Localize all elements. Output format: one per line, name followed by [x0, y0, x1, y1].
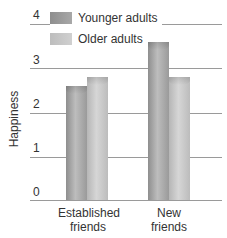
cat-line: Established: [58, 206, 118, 220]
gridline-0: [30, 200, 222, 201]
gridline-3: [30, 68, 222, 69]
cat-line: New: [148, 206, 190, 220]
bar-established-younger: [66, 86, 87, 200]
y-tick-2: 2: [33, 97, 40, 111]
bar-new-younger: [148, 42, 169, 200]
legend-swatch-younger: [50, 12, 72, 24]
legend-label-younger: Younger adults: [78, 11, 158, 25]
gridline-1: [30, 157, 222, 158]
x-category-established: Established friends: [58, 206, 118, 234]
bar-new-older: [169, 77, 190, 200]
y-tick-4: 4: [33, 8, 40, 22]
gridline-2: [30, 113, 222, 114]
x-category-new: New friends: [148, 206, 190, 234]
legend-older: Older adults: [50, 32, 147, 46]
happiness-bar-chart: Happiness 4 3 2 1 0 Younger adults Older…: [0, 0, 227, 238]
cat-line: friends: [148, 220, 190, 234]
y-tick-1: 1: [33, 141, 40, 155]
legend-swatch-older: [50, 33, 72, 45]
bar-established-older: [87, 77, 108, 200]
legend-label-older: Older adults: [78, 32, 143, 46]
legend-younger: Younger adults: [50, 11, 162, 25]
y-tick-0: 0: [33, 185, 40, 199]
cat-line: friends: [58, 220, 118, 234]
y-axis-label: Happiness: [7, 91, 21, 148]
y-tick-3: 3: [33, 53, 40, 67]
